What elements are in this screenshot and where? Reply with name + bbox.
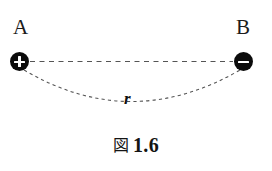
arc-dashed-line bbox=[24, 70, 240, 102]
minus-horizontal-bar bbox=[238, 61, 249, 64]
figure-caption: 図1.6 bbox=[0, 133, 272, 158]
figure-number: 1.6 bbox=[133, 134, 159, 156]
figure-kanji-glyph: 図 bbox=[113, 136, 129, 155]
figure-diagram: A B r 図1.6 bbox=[0, 0, 272, 171]
plus-vertical-bar bbox=[18, 56, 21, 67]
distance-label-r: r bbox=[124, 90, 131, 107]
plus-circle-icon bbox=[10, 52, 29, 71]
minus-circle-icon bbox=[234, 52, 253, 71]
